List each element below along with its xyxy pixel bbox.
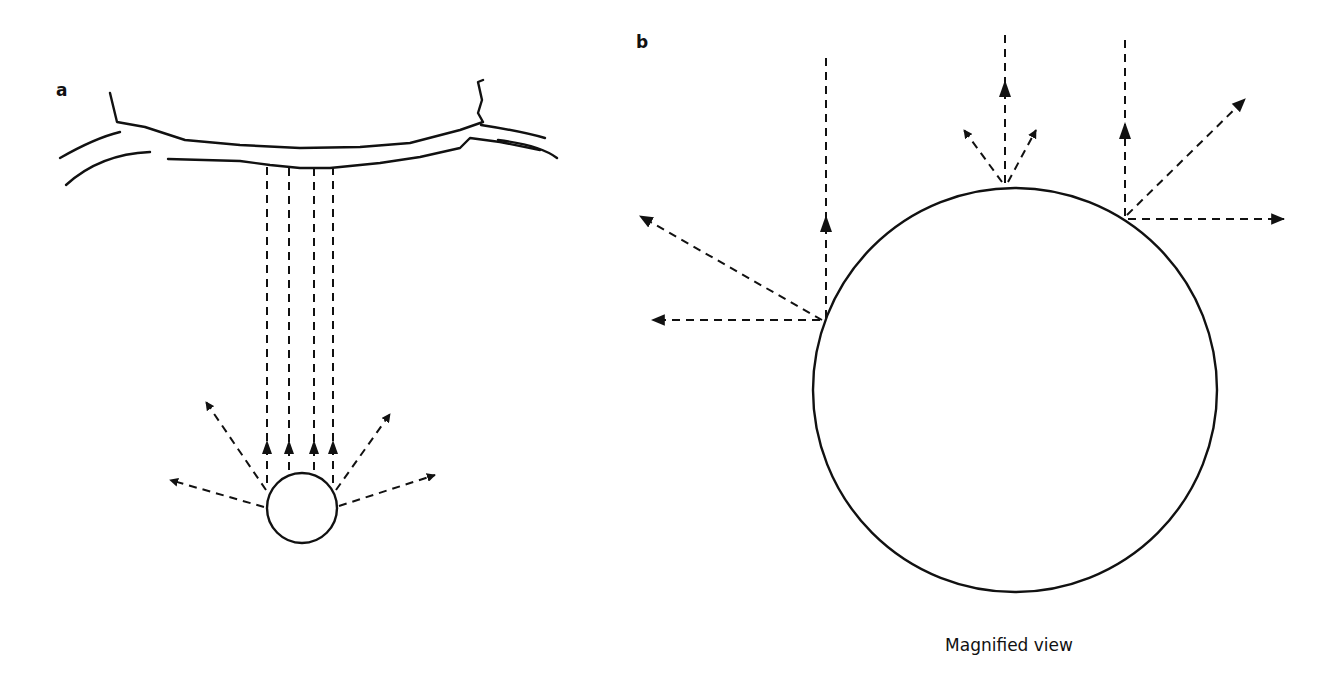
scatter-point-top	[964, 30, 1036, 183]
figure-canvas: a	[0, 0, 1332, 685]
particle-small	[267, 473, 337, 543]
scattered-rays	[170, 402, 435, 507]
panel-b: b Magnified view	[636, 30, 1284, 655]
arrow-up-icon	[999, 80, 1011, 97]
arrow-up-icon	[262, 440, 272, 454]
vertical-rays	[262, 167, 338, 483]
panel-a-label: a	[56, 80, 67, 100]
vessel-outline	[60, 80, 557, 185]
panel-b-caption: Magnified view	[945, 635, 1073, 655]
scatter-point-left	[640, 55, 832, 320]
panel-a: a	[56, 80, 557, 543]
particle-magnified	[813, 188, 1217, 592]
arrow-up-icon	[284, 440, 294, 454]
arrow-up-icon	[328, 440, 338, 454]
panel-b-label: b	[636, 32, 648, 52]
arrow-up-icon	[1119, 122, 1131, 139]
arrow-up-icon	[820, 215, 832, 232]
scatter-point-right	[1119, 35, 1284, 219]
arrow-up-icon	[309, 440, 319, 454]
